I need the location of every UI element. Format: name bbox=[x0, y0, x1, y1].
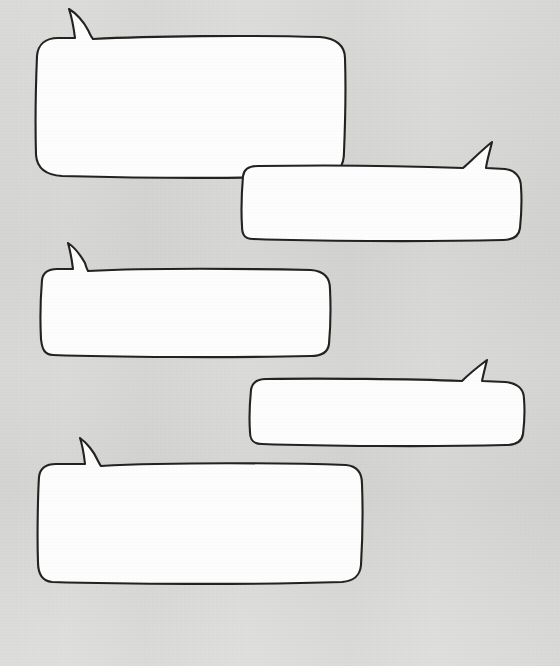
speech-bubble-5-text[interactable] bbox=[54, 476, 348, 570]
speech-bubble-4-text[interactable] bbox=[264, 390, 510, 432]
speech-bubble-3-text[interactable] bbox=[56, 282, 314, 342]
speech-bubble-1-text[interactable] bbox=[52, 52, 328, 162]
speech-bubble-2-text[interactable] bbox=[256, 178, 504, 226]
artboard bbox=[0, 0, 560, 666]
